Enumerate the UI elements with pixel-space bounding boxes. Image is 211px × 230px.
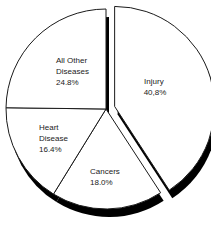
label-all-other-name-2: Diseases [56, 67, 89, 76]
label-injury-value: 40,8% [144, 88, 167, 97]
label-heart-disease-name-1: Heart [39, 123, 59, 132]
label-heart-disease-name-2: Disease [39, 134, 68, 143]
label-all-other-value: 24.8% [56, 78, 79, 87]
label-heart-disease-value: 16.4% [39, 145, 62, 154]
label-cancers-value: 18.0% [90, 178, 113, 187]
label-cancers-name: Cancers [90, 167, 120, 176]
label-all-other-name-1: All Other [56, 56, 87, 65]
pie-chart: Injury 40,8% Cancers 18.0% Heart Disease… [0, 0, 211, 230]
label-injury-name: Injury [144, 77, 164, 86]
